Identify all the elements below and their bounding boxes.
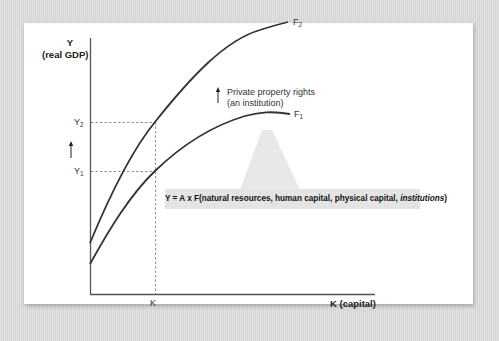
- x-axis-title: K (capital): [330, 299, 376, 309]
- shift-note-line1: Private property rights: [227, 87, 315, 98]
- callout-pointer: [240, 130, 300, 190]
- f2-label: F2: [293, 17, 302, 30]
- shift-note: Private property rights (an institution): [227, 87, 315, 109]
- shift-note-line2: (an institution): [227, 98, 315, 109]
- y1-tick-label: Y1: [74, 166, 84, 179]
- y-axis-subtitle: (real GDP): [42, 50, 88, 60]
- y-axis-title: Y: [50, 38, 90, 48]
- equation-main: Y = A x F(natural resources, human capit…: [165, 194, 400, 203]
- y-increase-arrow-head: [69, 141, 73, 146]
- equation-close: ): [444, 194, 447, 203]
- shift-arrow-head: [216, 87, 220, 92]
- curve-f2: [90, 22, 288, 243]
- y2-tick-label: Y2: [74, 117, 84, 130]
- f1-label: F1: [294, 109, 303, 122]
- k-tick-label: K: [150, 298, 156, 308]
- equation-italic: institutions: [400, 194, 444, 203]
- equation-callout: Y = A x F(natural resources, human capit…: [165, 189, 420, 209]
